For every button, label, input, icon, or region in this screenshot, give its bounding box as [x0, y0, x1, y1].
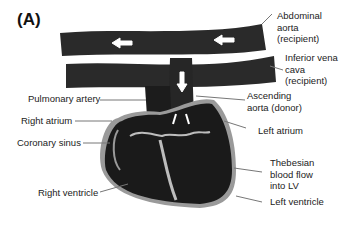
- leader-left-ventricle: [236, 196, 262, 202]
- leader-abdominal-aorta: [262, 14, 272, 24]
- leader-thebesian: [234, 168, 262, 172]
- abdominal-aorta-vessel: [60, 24, 266, 56]
- label-right-ventricle: Right ventricle: [38, 187, 98, 199]
- label-left-atrium: Left atrium: [258, 125, 303, 137]
- label-left-ventricle: Left ventricle: [270, 196, 324, 208]
- label-right-atrium: Right atrium: [21, 115, 72, 127]
- label-coronary-sinus: Coronary sinus: [17, 137, 81, 149]
- label-abdominal-aorta: Abdominal aorta (recipient): [277, 10, 322, 45]
- label-thebesian-flow: Thebesian blood flow into LV: [270, 157, 314, 192]
- label-pulmonary-artery: Pulmonary artery: [28, 93, 100, 105]
- label-inferior-vena-cava: Inferior vena cava (recipient): [285, 52, 338, 87]
- label-ascending-aorta: Ascending aorta (donor): [247, 90, 302, 113]
